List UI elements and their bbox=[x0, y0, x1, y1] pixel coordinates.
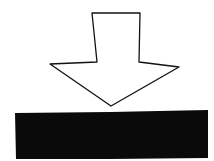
bar-icon bbox=[15, 110, 208, 159]
illustration-svg bbox=[0, 0, 214, 161]
download-illustration: Hand-drawn outlined down arrow pointing … bbox=[0, 0, 214, 161]
